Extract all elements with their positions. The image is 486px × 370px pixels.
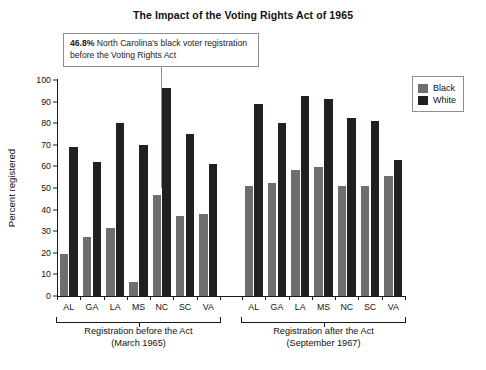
chart-figure: The Impact of the Voting Rights Act of 1…	[0, 0, 486, 370]
bar-after-GA-white	[278, 123, 287, 296]
y-tick-mark-10	[53, 274, 57, 275]
y-axis-label: Percent registered	[6, 149, 17, 227]
y-tick-mark-100	[53, 80, 57, 81]
x-axis-line	[57, 296, 406, 297]
x-tick-mark	[80, 296, 81, 300]
x-tick-mark	[242, 296, 243, 300]
bar-before-GA-black	[83, 237, 92, 296]
bar-after-GA-black	[268, 183, 277, 296]
x-tick-mark	[127, 296, 128, 300]
annotation-leader-line	[161, 66, 162, 188]
bar-after-NC-white	[347, 118, 356, 296]
plot-area: Percent registered 010203040506070809010…	[57, 80, 405, 296]
bar-after-LA-white	[301, 96, 310, 296]
bar-before-VA-black	[199, 214, 208, 296]
x-tick-mark	[312, 296, 313, 300]
annotation-callout: 46.8% North Carolina's black voter regis…	[63, 33, 259, 67]
bar-before-SC-white	[186, 134, 195, 296]
y-tick-mark-30	[53, 231, 57, 232]
chart-legend: Black White	[412, 76, 464, 112]
group-label-line2: (September 1967)	[273, 338, 374, 350]
y-tick-mark-90	[53, 101, 57, 102]
bar-after-SC-white	[371, 121, 380, 296]
x-category-label-VA: VA	[388, 302, 399, 312]
x-tick-mark	[289, 296, 290, 300]
group-label-line2: (March 1965)	[84, 338, 192, 350]
x-tick-mark	[104, 296, 105, 300]
group-label-line1: Registration after the Act	[273, 326, 374, 338]
bar-before-MS-white	[139, 145, 148, 296]
x-category-label-NC: NC	[155, 302, 168, 312]
x-tick-mark	[150, 296, 151, 300]
x-tick-mark	[197, 296, 198, 300]
bar-before-AL-black	[60, 254, 69, 296]
x-category-label-GA: GA	[86, 302, 99, 312]
legend-label-white: White	[433, 95, 456, 105]
x-tick-mark	[335, 296, 336, 300]
x-category-label-VA: VA	[203, 302, 214, 312]
bar-after-AL-black	[245, 186, 254, 296]
x-tick-mark	[220, 296, 221, 300]
x-category-label-AL: AL	[248, 302, 259, 312]
x-tick-mark	[57, 296, 58, 300]
chart-title: The Impact of the Voting Rights Act of 1…	[0, 9, 486, 21]
bar-after-MS-white	[324, 99, 333, 296]
y-tick-mark-40	[53, 209, 57, 210]
x-tick-mark	[382, 296, 383, 300]
bar-before-MS-black	[129, 282, 138, 296]
bar-after-AL-white	[254, 104, 263, 296]
x-category-label-AL: AL	[63, 302, 74, 312]
legend-swatch-black	[418, 84, 428, 93]
bar-before-NC-black	[153, 195, 162, 296]
y-tick-mark-60	[53, 166, 57, 167]
bar-after-LA-black	[291, 170, 300, 296]
bar-after-MS-black	[314, 167, 323, 296]
bar-before-NC-white	[162, 88, 171, 296]
bar-after-VA-white	[394, 160, 403, 296]
x-category-label-SC: SC	[364, 302, 376, 312]
group-label-line1: Registration before the Act	[84, 326, 192, 338]
y-tick-mark-50	[53, 188, 57, 189]
y-tick-mark-20	[53, 252, 57, 253]
legend-swatch-white	[418, 96, 428, 105]
x-category-label-SC: SC	[179, 302, 191, 312]
legend-label-black: Black	[433, 83, 455, 93]
group-label-before: Registration before the Act(March 1965)	[84, 326, 192, 349]
x-category-label-GA: GA	[271, 302, 284, 312]
x-category-label-MS: MS	[317, 302, 330, 312]
x-tick-mark	[405, 296, 406, 300]
legend-entry-white: White	[418, 95, 456, 105]
x-category-label-MS: MS	[132, 302, 145, 312]
bar-before-GA-white	[93, 162, 102, 296]
legend-entry-black: Black	[418, 83, 456, 93]
bar-after-VA-black	[384, 176, 393, 296]
bar-before-AL-white	[69, 147, 78, 296]
y-tick-mark-80	[53, 123, 57, 124]
x-category-label-LA: LA	[110, 302, 121, 312]
group-label-after: Registration after the Act(September 196…	[273, 326, 374, 349]
x-tick-mark	[265, 296, 266, 300]
bar-before-SC-black	[176, 216, 185, 296]
x-tick-mark	[358, 296, 359, 300]
bar-before-LA-white	[116, 123, 125, 296]
bar-before-LA-black	[106, 228, 115, 296]
y-tick-mark-70	[53, 144, 57, 145]
bar-after-NC-black	[338, 186, 347, 296]
bar-before-VA-white	[209, 164, 218, 296]
bar-after-SC-black	[361, 186, 370, 296]
x-category-label-NC: NC	[340, 302, 353, 312]
annotation-text: North Carolina's black voter registratio…	[70, 38, 247, 60]
x-category-label-LA: LA	[295, 302, 306, 312]
x-tick-mark	[173, 296, 174, 300]
annotation-value: 46.8%	[70, 38, 94, 48]
